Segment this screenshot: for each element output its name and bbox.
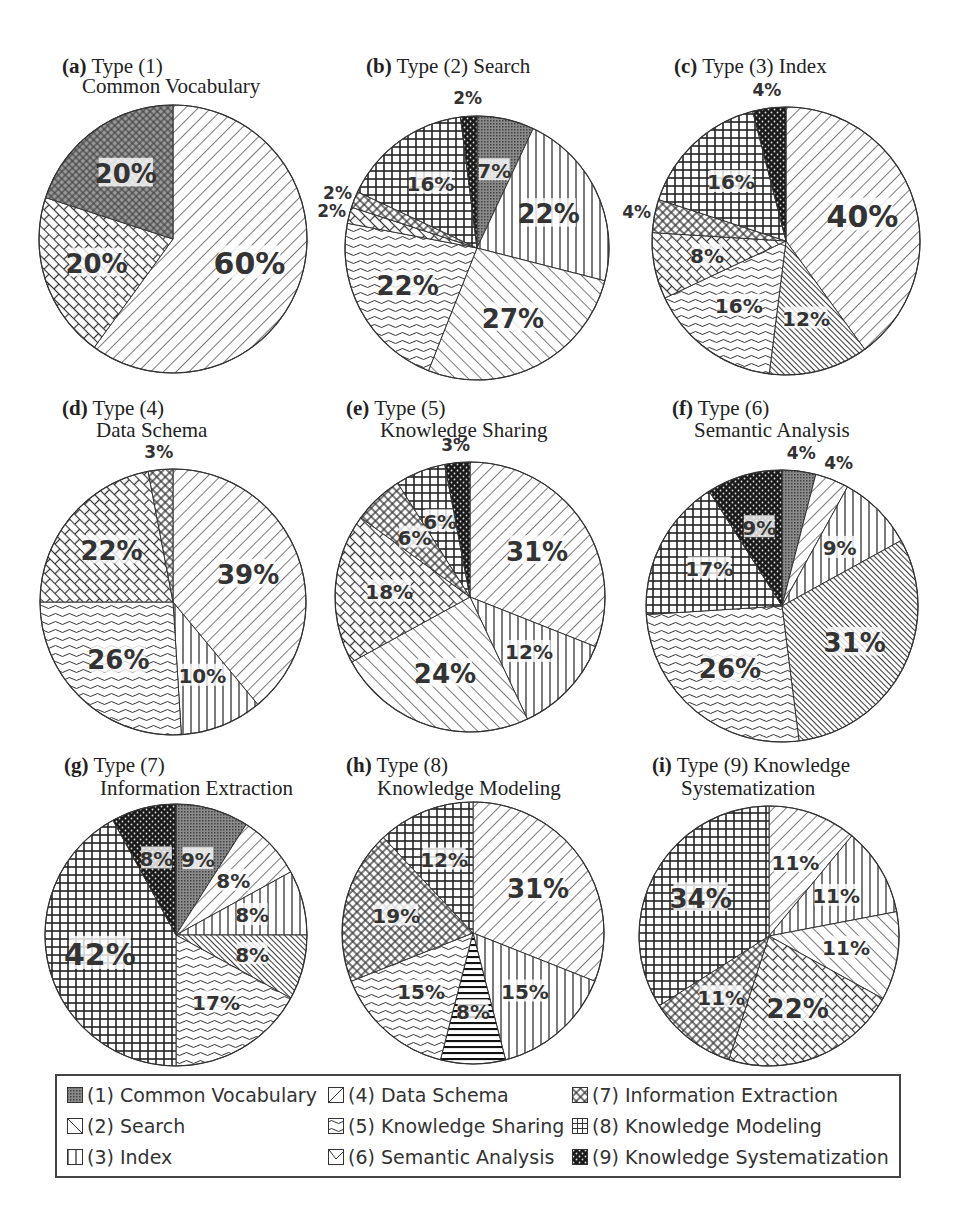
slice-percent-label: 18% <box>365 580 413 604</box>
panel-subtitle: Systematization <box>681 777 815 799</box>
slice-percent-label: 20% <box>65 249 127 279</box>
legend-item-knowledge-systematization: (9) Knowledge Systematization <box>572 1146 889 1168</box>
slice-percent-label: 4% <box>824 453 853 473</box>
slice-percent-label: 16% <box>715 294 763 318</box>
slice-percent-label: 4% <box>753 80 782 100</box>
slice-percent-label: 4% <box>787 443 816 463</box>
swatch-grid-icon <box>572 1118 588 1134</box>
swatch-backdiag-icon <box>67 1118 83 1134</box>
pie-chart-b: 7%22%27%22%2%2%16%2% <box>343 114 611 382</box>
slice-percent-label: 16% <box>707 170 755 194</box>
swatch-dots-gray-icon <box>67 1087 83 1103</box>
panel-title: (g) Type (7) <box>64 754 165 776</box>
pie-chart-f: 4%4%9%31%26%17%9% <box>644 468 920 744</box>
slice-percent-label: 22% <box>767 994 829 1024</box>
slice-percent-label: 11% <box>697 986 745 1010</box>
panel-title: (b) Type (2) Search <box>366 55 530 77</box>
slice-percent-label: 22% <box>518 199 580 229</box>
legend-item-semantic-analysis: (6) Semantic Analysis <box>328 1146 554 1168</box>
slice-percent-label: 8% <box>216 869 250 893</box>
slice-percent-label: 4% <box>622 202 651 222</box>
legend: (1) Common Vocabulary (2) Search (3) Ind… <box>55 1074 901 1178</box>
slice-percent-label: 22% <box>376 271 438 301</box>
slice-percent-label: 17% <box>685 557 733 581</box>
slice-percent-label: 15% <box>397 980 445 1004</box>
slice-percent-label: 16% <box>407 172 455 196</box>
slice-percent-label: 31% <box>824 628 886 658</box>
panel-title: (i) Type (9) Knowledge <box>652 754 850 776</box>
slice-percent-label: 8% <box>690 244 724 268</box>
pie-chart-i: 11%11%11%22%11%34% <box>637 804 901 1068</box>
panel-title: (h) Type (8) <box>346 754 448 776</box>
slice-percent-label: 11% <box>812 884 860 908</box>
panel-subtitle: Semantic Analysis <box>694 419 850 441</box>
legend-item-index: (3) Index <box>67 1146 172 1168</box>
slice-percent-label: 15% <box>501 980 549 1004</box>
panel-subtitle: Knowledge Modeling <box>377 777 561 799</box>
pie-chart-g: 9%8%8%8%17%42%8% <box>43 802 309 1068</box>
slice-percent-label: 3% <box>144 442 173 462</box>
slice-percent-label: 19% <box>372 904 420 928</box>
panel-title: (c) Type (3) Index <box>674 55 827 77</box>
slice-percent-label: 12% <box>420 848 468 872</box>
slice-percent-label: 42% <box>64 937 136 972</box>
legend-item-knowledge-sharing: (5) Knowledge Sharing <box>328 1115 564 1137</box>
slice-percent-label: 31% <box>506 537 568 567</box>
slice-percent-label: 9% <box>181 848 215 872</box>
slice-percent-label: 8% <box>456 1000 490 1024</box>
legend-item-knowledge-modeling: (8) Knowledge Modeling <box>572 1115 822 1137</box>
slice-percent-label: 12% <box>505 640 553 664</box>
slice-percent-label: 12% <box>782 307 830 331</box>
pie-chart-a: 60%20%20% <box>37 103 309 375</box>
swatch-fwddiag-icon <box>328 1087 344 1103</box>
pie-chart-c: 40%12%16%8%4%16%4% <box>650 105 922 377</box>
slice-percent-label: 26% <box>699 654 761 684</box>
slice-percent-label: 8% <box>235 943 269 967</box>
slice-percent-label: 6% <box>423 510 457 534</box>
slice-percent-label: 8% <box>139 847 173 871</box>
slice-percent-label: 11% <box>822 936 870 960</box>
swatch-vertical-lines-icon <box>67 1149 83 1165</box>
legend-item-data-schema: (4) Data Schema <box>328 1084 509 1106</box>
legend-item-information-extraction: (7) Information Extraction <box>572 1084 838 1106</box>
pie-chart-e: 31%12%24%18%6%6%3% <box>333 460 607 734</box>
slice-percent-label: 10% <box>178 664 226 688</box>
panel-subtitle: Common Vocabulary <box>82 75 260 97</box>
swatch-diamond-icon <box>572 1087 588 1103</box>
slice-percent-label: 22% <box>80 536 142 566</box>
slice-percent-label: 2% <box>323 183 352 203</box>
slice-percent-label: 9% <box>823 536 857 560</box>
slice-percent-label: 17% <box>192 991 240 1015</box>
slice-percent-label: 34% <box>670 884 732 914</box>
slice-percent-label: 60% <box>214 246 286 281</box>
panel-title: (d) Type (4) <box>62 397 164 419</box>
slice-percent-label: 3% <box>441 435 470 455</box>
swatch-black-dots-icon <box>572 1149 588 1165</box>
pie-chart-h: 31%15%8%15%19%12% <box>340 800 606 1066</box>
panel-title: (e) Type (5) <box>346 397 446 419</box>
slice-percent-label: 7% <box>477 159 511 183</box>
slice-percent-label: 39% <box>217 560 279 590</box>
legend-item-common-vocabulary: (1) Common Vocabulary <box>67 1084 317 1106</box>
slice-percent-label: 27% <box>482 304 544 334</box>
slice-percent-label: 8% <box>235 903 269 927</box>
legend-item-search: (2) Search <box>67 1115 185 1137</box>
slice-percent-label: 9% <box>742 516 776 540</box>
panel-title: (f) Type (6) <box>672 397 769 419</box>
panel-subtitle: Information Extraction <box>100 777 293 799</box>
swatch-densediag-icon <box>328 1149 344 1165</box>
slice-percent-label: 26% <box>87 645 149 675</box>
slice-percent-label: 31% <box>507 874 569 904</box>
pie-chart-d: 39%10%26%22%3% <box>38 467 308 737</box>
slice-percent-label: 2% <box>317 201 346 221</box>
slice-percent-label: 40% <box>827 199 899 234</box>
swatch-wave-icon <box>328 1118 344 1134</box>
slice-percent-label: 2% <box>453 88 482 108</box>
slice-percent-label: 20% <box>95 159 157 189</box>
panel-subtitle: Data Schema <box>96 419 207 441</box>
slice-percent-label: 11% <box>771 851 819 875</box>
slice-percent-label: 24% <box>414 659 476 689</box>
